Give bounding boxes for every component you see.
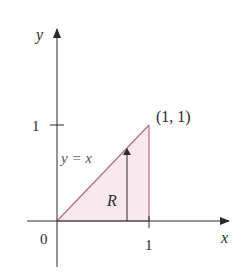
y-axis-label: y: [34, 26, 44, 44]
point-label: (1, 1): [156, 108, 191, 126]
origin-label: 0: [40, 231, 48, 247]
curve-label: y = x: [59, 150, 92, 166]
diagram-canvas: y x 0 1 1 (1, 1) y = x R: [0, 0, 249, 277]
x-tick-label: 1: [145, 237, 153, 253]
x-axis-label: x: [220, 229, 228, 246]
y-tick-label: 1: [32, 118, 40, 134]
region-label: R: [106, 192, 117, 209]
